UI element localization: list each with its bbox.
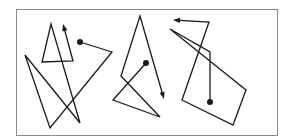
paths-layer bbox=[25, 16, 246, 128]
path-line bbox=[170, 20, 246, 125]
arrowhead-icon bbox=[160, 92, 165, 99]
diagram-frame bbox=[17, 10, 278, 136]
path-line bbox=[25, 24, 112, 128]
start-dot-icon bbox=[77, 39, 83, 45]
random-walk-diagram bbox=[0, 0, 286, 140]
start-dot-icon bbox=[207, 99, 213, 105]
start-dot-icon bbox=[143, 60, 149, 66]
path-line bbox=[113, 16, 162, 117]
arrowhead-icon bbox=[173, 18, 180, 23]
middle-path bbox=[113, 16, 165, 117]
right-path bbox=[170, 18, 246, 125]
arrowhead-icon bbox=[62, 24, 67, 31]
left-path bbox=[25, 24, 112, 128]
